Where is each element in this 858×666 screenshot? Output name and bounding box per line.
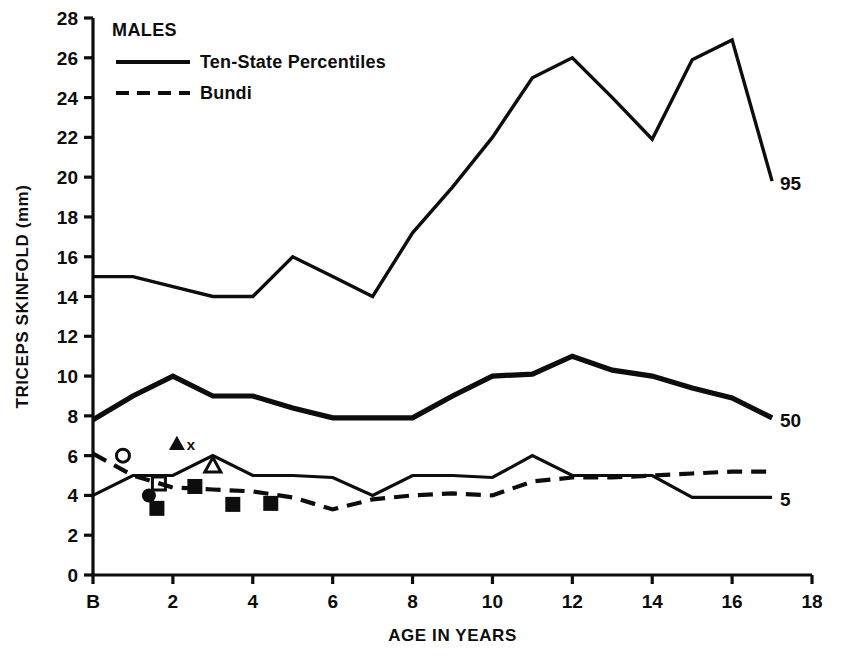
marker-filled-square <box>263 496 278 511</box>
legend-label-ten-state-percentiles: Ten-State Percentiles <box>200 52 386 72</box>
y-axis-tick-label: 16 <box>57 247 78 268</box>
x-axis-tick-label: 4 <box>247 591 258 612</box>
marker-filled-square <box>187 479 202 494</box>
y-axis-tick-label: 22 <box>57 127 78 148</box>
series-line-ten-state-percentiles-95th <box>93 40 772 297</box>
x-axis-title: AGE IN YEARS <box>388 626 517 645</box>
curve-end-label-50: 50 <box>780 410 801 431</box>
y-axis-tick-label: 26 <box>57 48 78 69</box>
triceps-skinfold-chart: x 0246810121416182022242628B246810121416… <box>0 0 858 666</box>
x-axis-tick-label: 10 <box>482 591 503 612</box>
curve-end-label-5: 5 <box>780 489 791 510</box>
marker-filled-square <box>149 501 164 516</box>
y-axis-tick-label: 8 <box>67 406 78 427</box>
legend-label-bundi: Bundi <box>200 83 252 103</box>
y-axis-tick-label: 24 <box>57 88 79 109</box>
x-axis-tick-label: 16 <box>722 591 743 612</box>
x-axis-tick-label: 2 <box>168 591 179 612</box>
y-axis-tick-label: 2 <box>67 525 78 546</box>
marker-x-mark: x <box>187 436 196 453</box>
marker-filled-triangle <box>169 436 185 450</box>
y-axis-tick-label: 10 <box>57 366 78 387</box>
y-axis-tick-label: 0 <box>67 565 78 586</box>
curve-end-label-95: 95 <box>780 173 802 194</box>
y-axis-tick-label: 20 <box>57 167 78 188</box>
y-axis-tick-label: 12 <box>57 326 78 347</box>
y-axis-tick-label: 14 <box>57 287 79 308</box>
y-axis-tick-label: 28 <box>57 8 78 29</box>
marker-filled-circle <box>142 488 156 502</box>
x-axis-tick-label: B <box>86 591 100 612</box>
text-labels: 0246810121416182022242628B24681012141618… <box>13 8 823 645</box>
marker-open-circle <box>116 449 129 462</box>
axes <box>84 18 812 584</box>
y-axis-tick-label: 18 <box>57 207 78 228</box>
marker-filled-square <box>225 497 240 512</box>
chart-figure: x 0246810121416182022242628B246810121416… <box>0 0 858 666</box>
series-line-ten-state-percentiles-50th <box>93 356 772 420</box>
y-axis-tick-label: 4 <box>67 485 78 506</box>
legend-title: MALES <box>112 20 177 40</box>
x-axis-tick-label: 14 <box>642 591 664 612</box>
y-axis-tick-label: 6 <box>67 446 78 467</box>
y-axis-title: TRICEPS SKINFOLD (mm) <box>13 184 32 408</box>
x-axis-tick-label: 18 <box>801 591 822 612</box>
x-axis-tick-label: 8 <box>407 591 418 612</box>
x-axis-tick-label: 6 <box>327 591 338 612</box>
x-axis-tick-label: 12 <box>562 591 583 612</box>
